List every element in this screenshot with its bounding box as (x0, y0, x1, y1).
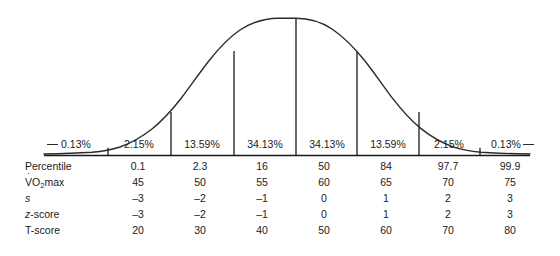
cell-vo2max-2: 55 (256, 176, 268, 188)
cell-s-3: 0 (321, 192, 327, 204)
row-label-s: s (25, 192, 30, 204)
cell-t-score-0: 20 (132, 224, 144, 236)
cell-z-score-6: 3 (507, 208, 513, 220)
cell-z-score-3: 0 (321, 208, 327, 220)
cell-percentile-3: 50 (318, 160, 330, 172)
cell-t-score-4: 60 (380, 224, 392, 236)
cell-s-1: –2 (194, 192, 206, 204)
cell-z-score-2: –1 (256, 208, 268, 220)
row-label-z-score: z-score (25, 208, 59, 220)
cell-t-score-6: 80 (504, 224, 516, 236)
v-dot-glyph: V (25, 176, 32, 188)
cell-percentile-0: 0.1 (131, 160, 146, 172)
cell-z-score-4: 1 (383, 208, 389, 220)
cell-z-score-5: 2 (445, 208, 451, 220)
cell-t-score-5: 70 (442, 224, 454, 236)
cell-s-4: 1 (383, 192, 389, 204)
cell-percentile-5: 97.7 (438, 160, 458, 172)
row-label-t-score: T-score (25, 224, 60, 236)
cell-vo2max-3: 60 (318, 176, 330, 188)
cell-vo2max-0: 45 (132, 176, 144, 188)
cell-t-score-3: 50 (318, 224, 330, 236)
cell-vo2max-4: 65 (380, 176, 392, 188)
cell-s-5: 2 (445, 192, 451, 204)
vo2-o: O (32, 176, 40, 188)
cell-percentile-4: 84 (380, 160, 392, 172)
cell-vo2max-1: 50 (194, 176, 206, 188)
normal-distribution-figure: 0.13% 2.15% 13.59% 34.13% 34.13% 13.59% … (0, 0, 560, 256)
z-score-suffix: -score (30, 208, 59, 220)
scale-table: Percentile 0.1 2.3 16 50 84 97.7 99.9 VO… (0, 0, 560, 256)
cell-z-score-0: –3 (132, 208, 144, 220)
cell-vo2max-6: 75 (504, 176, 516, 188)
vo2-subscript: 2 (40, 181, 44, 190)
cell-s-0: –3 (132, 192, 144, 204)
row-label-vo2max: VO2max (25, 176, 64, 190)
vo2-max: max (44, 176, 64, 188)
cell-s-6: 3 (507, 192, 513, 204)
cell-t-score-1: 30 (194, 224, 206, 236)
cell-percentile-2: 16 (256, 160, 268, 172)
cell-z-score-1: –2 (194, 208, 206, 220)
cell-percentile-1: 2.3 (193, 160, 208, 172)
cell-percentile-6: 99.9 (500, 160, 520, 172)
row-label-percentile: Percentile (25, 160, 72, 172)
cell-s-2: –1 (256, 192, 268, 204)
cell-t-score-2: 40 (256, 224, 268, 236)
cell-vo2max-5: 70 (442, 176, 454, 188)
